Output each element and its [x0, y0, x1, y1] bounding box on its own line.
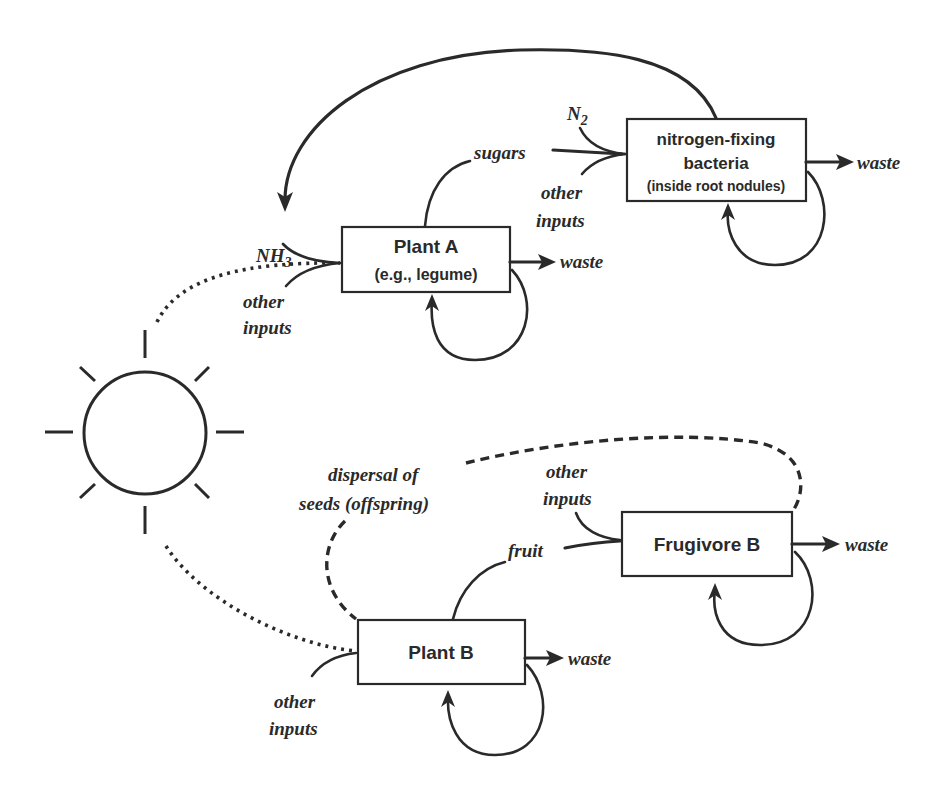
plant-a-node: Plant A (e.g., legume) [342, 227, 510, 292]
n2-label: N2 [566, 103, 588, 128]
bacteria-line3: (inside root nodules) [647, 178, 785, 194]
plant-b-other-label: other [274, 691, 316, 712]
ecology-flow-diagram: Plant A (e.g., legume) NH3 other inputs … [0, 0, 949, 795]
frugivore-waste-label: waste [845, 534, 889, 555]
sun-icon [45, 330, 244, 534]
fruit-label: fruit [508, 540, 544, 561]
bacteria-waste-label: waste [857, 152, 901, 173]
n2-input-edge [580, 128, 625, 154]
dispersal-label-line2: seeds (offspring) [298, 493, 429, 515]
plant-a-inputs-label: inputs [243, 317, 292, 338]
fruit-edge-curve [453, 562, 505, 619]
fruit-to-frugivore-edge [565, 541, 620, 548]
seed-dispersal-edge [466, 437, 801, 512]
plant-b-waste-label: waste [568, 648, 612, 669]
bacteria-line2: bacteria [683, 154, 749, 173]
plant-b-node: Plant B [358, 620, 525, 684]
plant-a-waste-label: waste [560, 251, 604, 272]
plant-a-other-label: other [243, 291, 285, 312]
bacteria-line1: nitrogen-fixing [657, 130, 776, 149]
bacteria-other-label: other [541, 182, 583, 203]
frugivore-inputs-label: inputs [543, 488, 592, 509]
bacteria-other-inputs-edge [582, 154, 625, 174]
bacteria-inputs-label: inputs [536, 210, 585, 231]
frugivore-b-node: Frugivore B [622, 512, 792, 576]
plant-b-other-inputs-edge [312, 653, 356, 676]
plant-a-title: Plant A [394, 236, 459, 257]
dispersal-label-line1: dispersal of [328, 464, 420, 485]
frugivore-b-title: Frugivore B [654, 534, 761, 555]
sugars-edge [425, 161, 470, 226]
frugivore-other-inputs-edge [576, 513, 620, 540]
bacteria-node: nitrogen-fixing bacteria (inside root no… [627, 119, 806, 201]
frugivore-other-label: other [546, 461, 588, 482]
sugars-label: sugars [473, 142, 526, 163]
plant-a-subtitle: (e.g., legume) [374, 266, 477, 283]
plant-a-other-inputs-edge [286, 263, 340, 286]
plant-b-title: Plant B [408, 642, 473, 663]
nh3-input-edge [283, 244, 340, 263]
seed-dispersal-edge-lower [327, 521, 356, 619]
plant-b-inputs-label: inputs [269, 718, 318, 739]
